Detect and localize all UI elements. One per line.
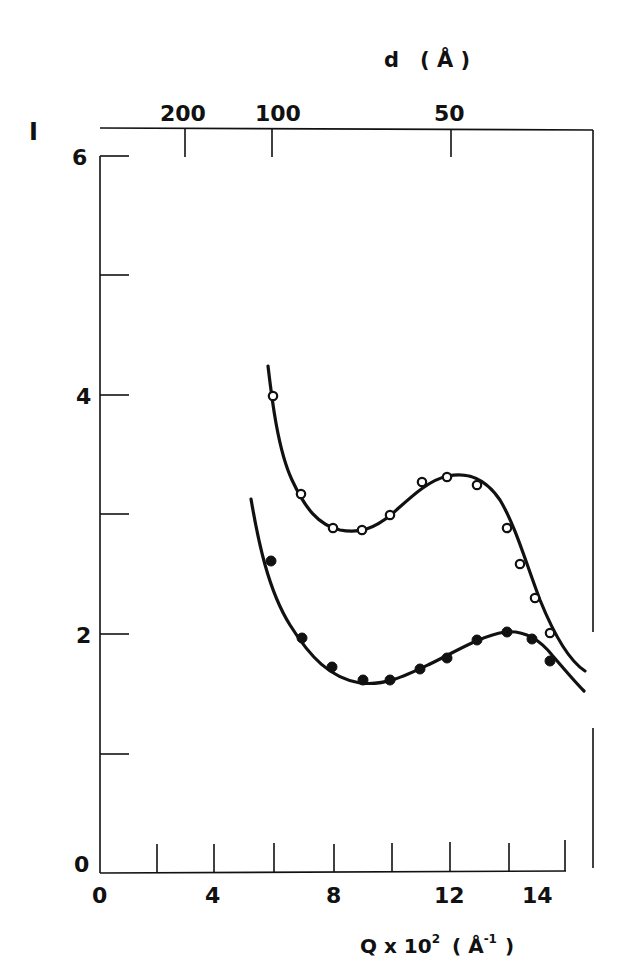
x-ticks <box>157 840 565 873</box>
lower-data-points <box>266 556 555 685</box>
top-tick-label-100: 100 <box>255 101 301 126</box>
upper-fit-curve <box>268 366 585 671</box>
y-tick-label-4: 4 <box>76 384 91 409</box>
y-ticks <box>100 156 129 754</box>
x-tick-label-12: 12 <box>434 883 465 908</box>
y-tick-label-6: 6 <box>72 145 87 170</box>
top-axis-line <box>100 128 593 130</box>
top-tick-label-50: 50 <box>434 101 465 126</box>
x-axis-title: Q x 102( Å-1) <box>360 932 514 958</box>
x-tick-label-14: 14 <box>522 883 553 908</box>
top-axis-title-d: d <box>384 48 399 72</box>
x-tick-label-4: 4 <box>205 883 220 908</box>
top-ticks <box>185 128 451 157</box>
x-axis-line <box>100 871 566 873</box>
top-tick-label-200: 200 <box>160 101 206 126</box>
top-axis-title-unit: ( Å ) <box>420 47 470 72</box>
x-tick-label-8: 8 <box>326 883 341 908</box>
y-axis-title: I <box>29 118 38 146</box>
chart: 6 4 2 0 0 4 8 12 14 200 100 50 I d ( Å )… <box>0 0 619 974</box>
y-tick-label-0: 0 <box>74 852 89 877</box>
x-tick-label-0: 0 <box>92 883 107 908</box>
y-tick-label-2: 2 <box>76 623 91 648</box>
